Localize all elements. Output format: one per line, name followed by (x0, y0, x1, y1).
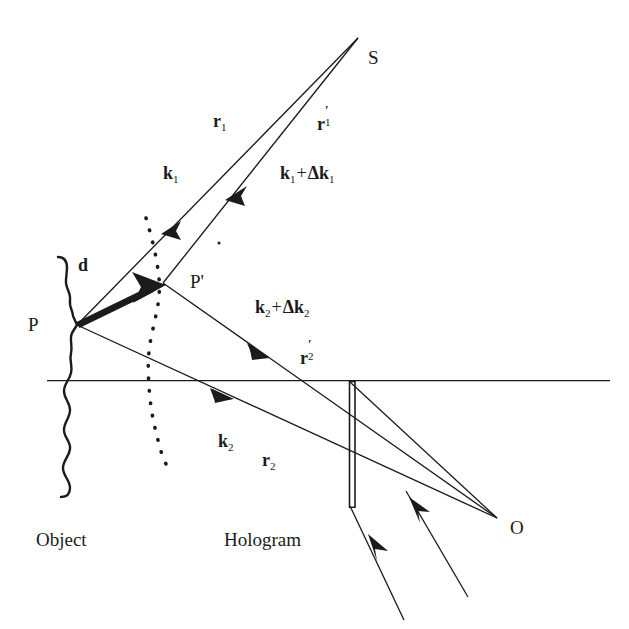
label-vector-r1-subscript: 1 (221, 121, 227, 133)
label-vector-r2: r2 (262, 451, 276, 469)
label-vector-r1: r1 (213, 112, 227, 130)
caption-object: Object (36, 530, 87, 549)
prime-subscript-stack: ′1 (325, 112, 331, 130)
k1-delta-operator: + (296, 163, 308, 183)
figure-canvas: S P P' O d r1 r′1 k1 k1+Δk1 k2+Δk2 r′2 k… (0, 0, 629, 629)
caption-hologram: Hologram (224, 530, 301, 549)
k1-delta-subscript: 1 (329, 173, 335, 185)
label-vector-r2-subscript: 2 (270, 460, 276, 472)
label-vector-r2-prime-subscript: 2 (308, 351, 314, 362)
label-vector-k2: k2 (218, 432, 234, 450)
illumination-ray-to-P-prime (163, 38, 358, 283)
label-point-P: P (28, 315, 39, 334)
diagram-graphics (0, 0, 629, 629)
k2-delta-symbol: Δk (283, 297, 304, 317)
plate-edge-ray-to-O (350, 382, 497, 518)
label-vector-k1: k1 (163, 164, 179, 182)
label-vector-k2-plus-delta-k2: k2+Δk2 (255, 298, 309, 316)
label-vector-k2-subscript: 2 (228, 441, 234, 453)
observation-ray-from-P (77, 325, 497, 518)
k1-delta-lead-subscript: 1 (290, 173, 296, 185)
label-vector-k1-subscript: 1 (173, 173, 179, 185)
displaced-object-surface-dotted-curve (146, 218, 167, 466)
label-point-P-prime: P' (190, 272, 204, 291)
displacement-vector-text: d (78, 255, 88, 275)
k1-delta-symbol: Δk (308, 163, 329, 183)
label-point-O: O (510, 518, 524, 537)
observation-ray-from-P-prime (163, 283, 497, 518)
stray-dot (218, 242, 221, 245)
label-vector-r2-prime: r′2 (300, 346, 314, 367)
reconstruction-beam-2 (406, 491, 468, 597)
label-vector-r1-prime-subscript: 1 (325, 117, 331, 128)
prime-subscript-stack-2: ′2 (308, 346, 314, 364)
k2-delta-operator: + (271, 297, 283, 317)
reconstruction-beam-1 (350, 506, 404, 620)
hologram-plate (350, 381, 356, 508)
label-vector-r1-prime: r′1 (317, 112, 331, 133)
label-displacement-vector-d: d (78, 256, 88, 274)
label-vector-k1-plus-delta-k1: k1+Δk1 (280, 164, 334, 182)
object-surface-wavy-line (58, 257, 77, 497)
k2-delta-subscript: 2 (304, 307, 310, 319)
k2-delta-lead-subscript: 2 (265, 307, 271, 319)
label-source-S: S (368, 48, 379, 67)
